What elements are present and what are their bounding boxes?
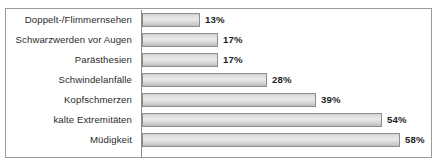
bar-value-label: 17% — [218, 53, 243, 67]
bar-value-label: 58% — [400, 133, 425, 147]
bar-row: Schwarzwerden vor Augen17% — [6, 30, 431, 50]
bar-row: Müdigkeit58% — [6, 130, 431, 150]
category-axis-line — [141, 10, 142, 158]
bar-rect — [142, 113, 382, 127]
bar-rect — [142, 73, 267, 87]
bar-category-label: Schwarzwerden vor Augen — [6, 30, 136, 50]
bar-category-label: Kopfschmerzen — [6, 90, 136, 110]
bar-rect — [142, 53, 218, 67]
bar-rect — [142, 33, 218, 47]
bar-value-label: 17% — [218, 33, 243, 47]
chart-frame: Doppelt-/Flimmernsehen13%Schwarzwerden v… — [5, 8, 432, 158]
bar-chart: Doppelt-/Flimmernsehen13%Schwarzwerden v… — [0, 0, 439, 168]
bar-category-label: Müdigkeit — [6, 130, 136, 150]
bar-value-label: 13% — [200, 13, 225, 27]
bar-row: Schwindelanfälle28% — [6, 70, 431, 90]
bar-rect — [142, 13, 200, 27]
bar-row: Kopfschmerzen39% — [6, 90, 431, 110]
bar-category-label: Schwindelanfälle — [6, 70, 136, 90]
bar-value-label: 28% — [267, 73, 292, 87]
bar-rect — [142, 93, 316, 107]
bar-category-label: Doppelt-/Flimmernsehen — [6, 10, 136, 30]
plot-area: Doppelt-/Flimmernsehen13%Schwarzwerden v… — [6, 9, 431, 157]
bar-value-label: 39% — [316, 93, 341, 107]
bar-category-label: kalte Extremitäten — [6, 110, 136, 130]
bar-row: Doppelt-/Flimmernsehen13% — [6, 10, 431, 30]
bar-row: kalte Extremitäten54% — [6, 110, 431, 130]
bar-category-label: Parästhesien — [6, 50, 136, 70]
bar-row: Parästhesien17% — [6, 50, 431, 70]
bar-value-label: 54% — [382, 113, 407, 127]
bar-rect — [142, 133, 400, 147]
